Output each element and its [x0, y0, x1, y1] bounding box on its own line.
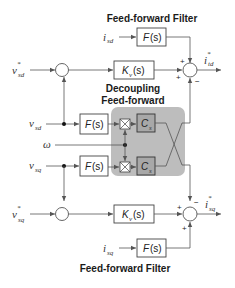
kv-bottom-arg: (s)	[133, 209, 145, 220]
cs-bottom-name: C	[141, 161, 149, 172]
sum-junction-vsq	[56, 208, 69, 221]
top-filter-title: Feed-forward Filter	[107, 13, 198, 24]
svg-text:*: *	[17, 60, 21, 68]
svg-text:*: *	[207, 50, 211, 58]
sign-bot-left: +	[177, 203, 182, 212]
isq-ref-label: i * sq	[205, 194, 216, 213]
svg-text:sq: sq	[209, 205, 216, 213]
itd-ref-label: i * td	[204, 50, 214, 68]
diagram-svg: Feed-forward Filter Decoupling Feed-forw…	[0, 0, 235, 288]
decoupling-title-line1: Decoupling	[106, 83, 160, 94]
sum-junction-isq	[183, 207, 197, 221]
filter-vsd-arg: (s)	[92, 119, 104, 130]
sign-top-upper: +	[180, 57, 185, 66]
svg-text:sq: sq	[18, 216, 25, 224]
decoupling-title-line2: Feed-forward	[101, 95, 164, 106]
svg-text:*: *	[208, 194, 212, 202]
sign-top-left: +	[176, 73, 181, 82]
kv-top-arg: (s)	[133, 65, 145, 76]
sign-top-lower: −	[195, 77, 200, 86]
svg-text:sd: sd	[18, 71, 25, 79]
svg-text:i: i	[103, 242, 106, 254]
svg-text:sq: sq	[35, 166, 42, 174]
svg-text:td: td	[208, 60, 214, 68]
svg-text:sd: sd	[35, 124, 42, 132]
vsd-label: v sd	[29, 117, 42, 132]
sign-bot-lower: +	[182, 224, 187, 233]
node-vsd	[62, 122, 66, 126]
isd-label: i sd	[103, 31, 114, 45]
sum-junction-itd	[183, 63, 197, 77]
vsq-label: v sq	[29, 159, 42, 174]
svg-text:v: v	[29, 159, 34, 171]
sum-junction-vsd	[56, 64, 69, 77]
cs-bottom-sub: s	[149, 167, 152, 175]
cs-top-name: C	[141, 118, 149, 129]
vsd-ref-label: v * sd	[12, 60, 25, 79]
svg-text:sq: sq	[107, 249, 114, 257]
filter-top-name: F	[143, 32, 150, 43]
filter-vsd-name: F	[85, 119, 92, 130]
filter-bottom-arg: (s)	[150, 243, 162, 254]
multiplier-bottom	[120, 162, 130, 172]
svg-text:*: *	[17, 204, 21, 212]
isq-label: i sq	[103, 242, 114, 257]
filter-vsq-arg: (s)	[92, 161, 104, 172]
sign-bot-upper: −	[194, 198, 199, 207]
wire-filter-top-to-sum	[166, 37, 190, 63]
svg-text:v: v	[29, 117, 34, 129]
cs-top-sub: s	[149, 124, 152, 132]
filter-top-arg: (s)	[150, 32, 162, 43]
multiplier-top	[120, 119, 130, 129]
control-block-diagram: Feed-forward Filter Decoupling Feed-forw…	[0, 0, 235, 288]
omega-label: ω	[43, 138, 51, 150]
svg-text:sd: sd	[107, 37, 114, 45]
vsq-ref-label: v * sq	[12, 204, 25, 224]
svg-text:i: i	[103, 31, 106, 43]
bottom-filter-title: Feed-forward Filter	[80, 263, 171, 274]
filter-vsq-name: F	[85, 161, 92, 172]
filter-bottom-name: F	[143, 243, 150, 254]
